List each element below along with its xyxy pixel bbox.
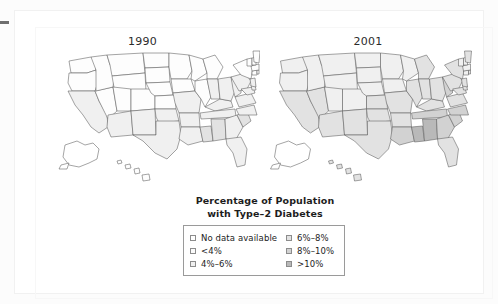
state-NJ xyxy=(250,78,256,87)
state-HI-4 xyxy=(142,174,150,181)
legend-title-line2: with Type–2 Diabetes xyxy=(167,208,363,221)
state-HI-4 xyxy=(354,174,362,181)
legend-swatch-8-to-10 xyxy=(286,248,292,254)
state-AZ xyxy=(319,111,345,137)
state-VT xyxy=(459,58,464,66)
state-AR xyxy=(179,113,200,127)
figure-panel: 1990 xyxy=(14,10,484,294)
legend-title-line1: Percentage of Population xyxy=(167,195,363,208)
map-canvas-2001 xyxy=(263,49,475,189)
state-AL xyxy=(423,119,438,141)
state-HI-1 xyxy=(117,160,122,164)
state-HI-3 xyxy=(346,168,352,174)
legend-item-over-10: >10% xyxy=(286,257,338,270)
legend-label-under-4: <4% xyxy=(201,246,222,256)
state-VT xyxy=(247,58,252,66)
state-AL xyxy=(211,119,226,141)
legend-item-under-4: <4% xyxy=(190,244,284,257)
state-KS xyxy=(367,95,388,109)
state-MO xyxy=(173,91,201,113)
state-AR xyxy=(391,113,412,127)
state-NJ xyxy=(462,78,468,87)
page-edge-artifact xyxy=(0,21,9,24)
state-FL xyxy=(438,137,459,167)
state-ND xyxy=(143,53,169,68)
state-AK-aleutians xyxy=(271,163,281,169)
legend-title: Percentage of Population with Type–2 Dia… xyxy=(167,195,363,220)
state-MT xyxy=(319,53,357,76)
state-SD xyxy=(145,67,170,83)
legend-column-right: 6%–8% 8%–10% >10% xyxy=(284,231,338,270)
state-RI xyxy=(469,70,471,74)
map-title-2001: 2001 xyxy=(283,35,453,48)
map-1990: 1990 xyxy=(55,35,260,190)
state-HI-2 xyxy=(125,164,131,169)
legend-swatch-no-data xyxy=(190,235,196,241)
state-AK-aleutians xyxy=(59,163,69,169)
legend-label-no-data: No data available xyxy=(201,233,277,243)
legend-label-over-10: >10% xyxy=(297,259,323,269)
state-KS xyxy=(155,95,176,109)
figure-root: 1990 xyxy=(0,0,498,304)
legend-swatch-4-to-6 xyxy=(190,261,196,267)
state-OR xyxy=(280,70,310,91)
legend-label-6-to-8: 6%–8% xyxy=(297,233,329,243)
state-MI xyxy=(203,55,223,79)
state-OR xyxy=(68,70,98,91)
state-ND xyxy=(355,53,381,68)
state-IA xyxy=(383,79,407,93)
state-ME xyxy=(253,51,260,63)
legend-item-no-data: No data available xyxy=(190,231,284,244)
state-NM xyxy=(343,109,368,135)
state-RI xyxy=(257,70,259,74)
state-FL xyxy=(226,137,247,167)
state-HI-2 xyxy=(337,164,343,169)
legend-label-4-to-6: 4%–6% xyxy=(201,259,233,269)
legend-swatch-under-4 xyxy=(190,248,196,254)
state-HI-1 xyxy=(329,160,334,164)
legend: Percentage of Population with Type–2 Dia… xyxy=(167,195,363,276)
state-MN xyxy=(169,53,192,79)
state-MI xyxy=(415,55,435,79)
state-MO xyxy=(385,91,413,113)
state-AZ xyxy=(107,111,133,137)
state-HI-3 xyxy=(134,168,140,174)
map-title-1990: 1990 xyxy=(65,35,220,48)
state-MT xyxy=(107,53,145,76)
map-canvas-1990 xyxy=(55,49,260,189)
legend-item-8-to-10: 8%–10% xyxy=(286,244,338,257)
state-NM xyxy=(131,109,156,135)
legend-label-8-to-10: 8%–10% xyxy=(297,246,334,256)
legend-item-4-to-6: 4%–6% xyxy=(190,257,284,270)
legend-box: No data available <4% 4%–6% xyxy=(183,225,345,276)
state-MN xyxy=(381,53,404,79)
state-ME xyxy=(465,51,472,63)
state-LA xyxy=(391,127,415,145)
state-IA xyxy=(171,79,195,93)
legend-item-6-to-8: 6%–8% xyxy=(286,231,338,244)
legend-swatch-6-to-8 xyxy=(286,235,292,241)
state-SD xyxy=(357,67,382,83)
state-LA xyxy=(179,127,203,145)
legend-swatch-over-10 xyxy=(286,261,292,267)
legend-column-left: No data available <4% 4%–6% xyxy=(190,231,284,270)
map-2001: 2001 xyxy=(263,35,475,190)
